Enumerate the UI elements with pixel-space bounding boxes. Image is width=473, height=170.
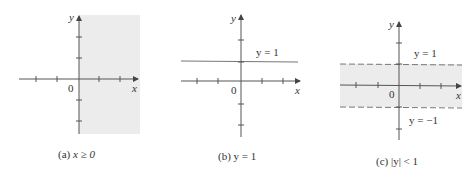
origin-label: 0	[231, 84, 237, 96]
y-axis-label: y	[230, 12, 236, 24]
y-axis-label: y	[388, 18, 394, 30]
caption-c: (c) |y| < 1	[376, 155, 418, 168]
caption-a: (a) x ≥ 0	[58, 148, 95, 161]
x-axis-label: x	[131, 82, 137, 94]
origin-label: 0	[68, 82, 74, 94]
line-label: y = 1	[256, 46, 279, 58]
panel-a: y x 0 (a) x ≥ 0	[19, 11, 140, 161]
lower-line-label: y = −1	[409, 114, 438, 126]
panel-b: y x 0 y = 1 (b) y = 1	[181, 12, 300, 163]
x-axis-label: x	[455, 89, 461, 101]
caption-b: (b) y = 1	[218, 150, 256, 163]
upper-line-label: y = 1	[414, 47, 437, 59]
origin-label: 0	[389, 88, 395, 100]
y-axis-label: y	[68, 11, 74, 23]
panel-c: y x 0 y = 1 y = −1 (c) |y| < 1	[340, 18, 462, 168]
figure-canvas: y x 0 (a) x ≥ 0 y x 0 y = 1 (b) y = 1	[0, 0, 473, 170]
shaded-half-plane	[79, 15, 140, 134]
x-axis-label: x	[294, 84, 300, 96]
